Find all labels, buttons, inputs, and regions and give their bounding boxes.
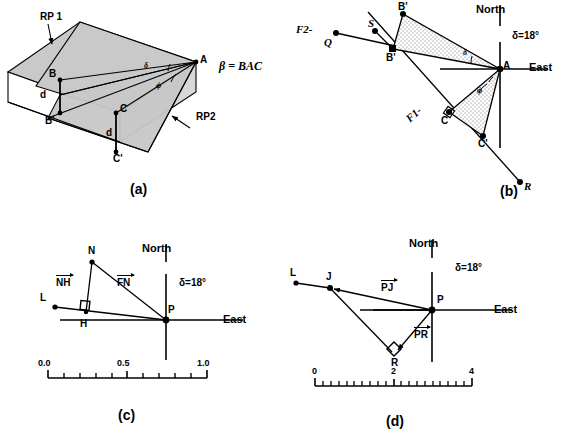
panel-b-label-A: A — [503, 61, 510, 71]
panel-b-label-C: C — [441, 116, 448, 126]
panel-b-label-Q: Q — [324, 37, 332, 48]
panel-a-beta-definition: β = BAC — [219, 60, 262, 72]
panel-a-label-d-left: d — [40, 90, 46, 100]
panel-d-scale-tick-1: 2 — [391, 367, 396, 376]
panel-a-angle-phi: ϕ — [156, 81, 161, 90]
panel-d-caption: (d) — [386, 414, 404, 428]
panel-c-delta-value: δ=18° — [179, 278, 206, 288]
panel-c-caption: (c) — [118, 408, 135, 422]
panel-a-label-d-right: d — [106, 128, 112, 138]
panel-c-label-L: L — [40, 293, 46, 303]
panel-c-label-H: H — [80, 319, 87, 329]
panel-a-label-B: B — [49, 69, 56, 79]
panel-a-label-C: C — [120, 104, 127, 114]
panel-b-label-C-prime: C' — [478, 139, 488, 149]
panel-d-vector-pj: PJ — [381, 280, 397, 293]
panel-b-label-S: S — [368, 18, 374, 29]
panel-c-scale-tick-0: 0.0 — [38, 359, 51, 368]
panel-b-label-B-prime: B' — [398, 2, 408, 12]
panel-a-label-B-prime: B' — [45, 116, 55, 126]
panel-c-vector-fn: FN — [117, 275, 134, 288]
panel-b-angle-phi: ϕ — [477, 86, 482, 95]
panel-d-label-J: J — [326, 272, 332, 282]
panel-b-label-f2: F2- — [296, 24, 313, 35]
panel-c-label-east: East — [223, 314, 246, 325]
panel-d-label-north: North — [409, 238, 438, 249]
panel-a-block — [8, 22, 198, 154]
figure-canvas — [0, 0, 564, 441]
panel-c-label-P: P — [168, 305, 175, 315]
panel-c-vector-nh: NH — [56, 275, 73, 288]
panel-a-caption: (a) — [130, 182, 147, 196]
panel-a-label-rp2: RP2 — [196, 112, 215, 122]
panel-d-scale-tick-0: 0 — [312, 367, 317, 376]
panel-d-label-P: P — [437, 295, 444, 305]
panel-c-label-north: North — [142, 243, 171, 254]
panel-b-delta-value: δ=18° — [512, 31, 539, 41]
panel-a-label-A: A — [200, 55, 207, 65]
panel-d-delta-value: δ=18° — [455, 263, 482, 273]
panel-d-label-east: East — [494, 304, 517, 315]
panel-a-angle-delta: δ — [144, 62, 148, 70]
panel-d-label-L: L — [290, 268, 296, 278]
panel-d-vector-pj-text: PJ — [381, 282, 393, 293]
panel-c-scale-tick-1: 0.5 — [117, 359, 130, 368]
panel-a-label-rp1: RP 1 — [40, 12, 62, 22]
panel-c-geometry — [48, 245, 243, 378]
panel-c-vector-fn-text: FN — [117, 277, 130, 288]
panel-c-label-N: N — [88, 246, 95, 256]
panel-c-scale-tick-2: 1.0 — [197, 359, 210, 368]
panel-d-scale-tick-2: 4 — [469, 367, 474, 376]
panel-b-label-R: R — [524, 181, 531, 192]
panel-c-vector-nh-text: NH — [56, 277, 70, 288]
panel-b-label-east: East — [529, 62, 552, 73]
panel-d-vector-pr: PR — [414, 327, 430, 340]
panel-b-label-north: North — [476, 4, 505, 15]
panel-b-caption: (b) — [500, 184, 518, 198]
panel-d-vector-pr-text: PR — [414, 329, 428, 340]
panel-b-label-B: B' — [386, 53, 396, 63]
panel-a-label-C-prime: C' — [113, 154, 123, 164]
panel-b-angle-delta: δ — [463, 49, 467, 57]
figure-root: RP 1 RP2 A B B' C C' d d δ ϕ β = BAC (a)… — [0, 0, 564, 441]
